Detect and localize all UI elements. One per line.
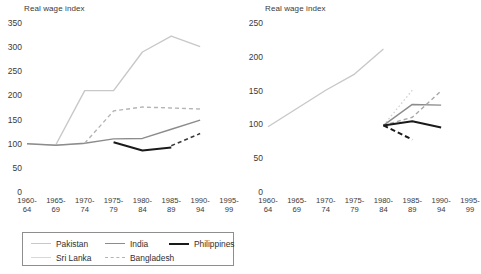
x-tick-label: 1980-84	[368, 196, 398, 214]
legend-swatch-icon	[169, 243, 189, 245]
right-chart-panel: Real wage index 250200150100500 1960-641…	[241, 0, 481, 274]
x-tick-label: 1975-79	[99, 196, 129, 214]
left-x-tick-labels: 1960-641965-691970-741975-791980-841985-…	[0, 196, 240, 218]
left-chart-panel: Real wage index 350300250200150100500 19…	[0, 0, 240, 274]
legend-label: Bangladesh	[130, 253, 174, 263]
legend-item[interactable]: Philippines	[169, 236, 235, 251]
legend-item[interactable]: India	[105, 236, 148, 251]
x-tick-label: 1985-89	[397, 196, 427, 214]
figure-root: Real wage index 350300250200150100500 19…	[0, 0, 481, 274]
x-tick-label: 1965-69	[41, 196, 71, 214]
series-line-india	[27, 120, 200, 145]
legend-swatch-icon	[105, 257, 125, 258]
legend-label: Philippines	[194, 239, 235, 249]
legend-swatch-icon	[31, 243, 51, 244]
series-line-philippines	[114, 142, 172, 150]
series-line-pakistan	[56, 36, 200, 145]
x-tick-label: 1970-74	[311, 196, 341, 214]
x-tick-label: 1995-99	[455, 196, 481, 214]
left-legend: PakistanIndiaPhilippinesSri LankaBanglad…	[22, 232, 234, 266]
series-line-zimbabwe	[383, 125, 412, 139]
series-line-botswana	[383, 91, 441, 125]
legend-item[interactable]: Bangladesh	[105, 250, 174, 265]
legend-label: Pakistan	[56, 239, 88, 249]
x-tick-label: 1980-84	[127, 196, 157, 214]
x-tick-label: 1995-99	[214, 196, 244, 214]
legend-swatch-icon	[105, 243, 125, 244]
series-line-philippines-dashed-tail	[171, 134, 200, 146]
x-tick-label: 1990-94	[185, 196, 215, 214]
legend-item[interactable]: Sri Lanka	[31, 250, 91, 265]
right-plot-area	[241, 0, 481, 274]
legend-label: Sri Lanka	[56, 253, 91, 263]
legend-swatch-icon	[31, 257, 51, 258]
x-tick-label: 1960-64	[253, 196, 283, 214]
x-tick-label: 1975-79	[340, 196, 370, 214]
x-tick-label: 1985-89	[156, 196, 186, 214]
right-x-tick-labels: 1960-641965-691970-741975-791980-841985-…	[241, 196, 481, 218]
series-line-south-africa	[268, 49, 383, 127]
x-tick-label: 1960-64	[12, 196, 42, 214]
legend-label: India	[130, 239, 148, 249]
x-tick-label: 1990-94	[426, 196, 456, 214]
legend-item[interactable]: Pakistan	[31, 236, 88, 251]
x-tick-label: 1965-69	[282, 196, 312, 214]
x-tick-label: 1970-74	[70, 196, 100, 214]
